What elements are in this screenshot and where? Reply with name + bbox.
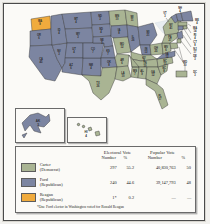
- candidate-party-carter: (Democrat): [40, 167, 101, 172]
- legend-swatch-carter-cell: [20, 160, 40, 175]
- map-area[interactable]: .s{stroke:#3c3c3c;stroke-width:.45;} .ca…: [5, 5, 203, 145]
- table-row[interactable]: Carter (Democrat) 297 55.2 40,830,763 50: [20, 160, 191, 175]
- state-or[interactable]: [30, 29, 52, 46]
- figure-plate: .s{stroke:#3c3c3c;stroke-width:.45;} .ca…: [5, 5, 203, 219]
- reagan-popular-number: —: [134, 190, 176, 205]
- col-electoral-number: Number: [101, 155, 117, 160]
- carter-popular-percent: 50: [176, 160, 191, 175]
- legend-swatch-ford-cell: [20, 175, 40, 190]
- legend-panel: Electoral Vote Popular Vote Number % Num…: [15, 146, 196, 213]
- footnote: *One Ford elector in Washington voted fo…: [37, 205, 124, 209]
- legend-swatch-carter: [21, 163, 36, 172]
- table-row[interactable]: Ford (Republican) 240 44.6 39,147,793 48: [20, 175, 191, 190]
- state-wa[interactable]: [31, 16, 51, 31]
- carter-electoral-number: 297: [101, 160, 117, 175]
- hawaii-map[interactable]: HI 4: [68, 118, 106, 142]
- ford-electoral-percent: 44.6: [117, 175, 134, 190]
- alaska-inset[interactable]: AK 3: [15, 108, 65, 143]
- candidate-party-reagan: (Republican): [40, 197, 101, 202]
- candidate-party-ford: (Republican): [40, 182, 101, 187]
- svg-text:4: 4: [85, 134, 87, 138]
- state-me[interactable]: [181, 11, 193, 21]
- table-row[interactable]: Reagan (Republican) 1* 0.2 — —: [20, 190, 191, 205]
- alaska-map[interactable]: AK 3: [16, 109, 64, 142]
- state-ma[interactable]: [178, 22, 187, 26]
- legend-label-carter: Carter (Democrat): [40, 160, 101, 175]
- dc-leader-line: [174, 49, 185, 71]
- hawaii-inset[interactable]: HI 4: [67, 117, 107, 143]
- figure-frame: .s{stroke:#3c3c3c;stroke-width:.45;} .ca…: [3, 3, 205, 221]
- reagan-popular-percent: —: [176, 190, 191, 205]
- legend-swatch-ford: [21, 178, 36, 187]
- legend-label-ford: Ford (Republican): [40, 175, 101, 190]
- legend-label-reagan: Reagan (Republican): [40, 190, 101, 205]
- state-dc[interactable]: [176, 71, 187, 77]
- carter-electoral-percent: 55.2: [117, 160, 134, 175]
- state-ri[interactable]: [183, 26, 187, 29]
- ford-popular-number: 39,147,793: [134, 175, 176, 190]
- legend-swatch-reagan: [21, 193, 36, 202]
- election-map-figure: .s{stroke:#3c3c3c;stroke-width:.45;} .ca…: [0, 0, 210, 224]
- state-md[interactable]: [170, 43, 178, 49]
- vote-table: Electoral Vote Popular Vote Number % Num…: [20, 150, 191, 205]
- carter-popular-number: 40,830,763: [134, 160, 176, 175]
- legend-swatch-reagan-cell: [20, 190, 40, 205]
- ford-popular-percent: 48: [176, 175, 191, 190]
- reagan-electoral-percent: 0.2: [117, 190, 134, 205]
- reagan-electoral-number: 1*: [101, 190, 117, 205]
- state-ct[interactable]: [178, 26, 183, 30]
- state-de[interactable]: [177, 39, 181, 43]
- ford-electoral-number: 240: [101, 175, 117, 190]
